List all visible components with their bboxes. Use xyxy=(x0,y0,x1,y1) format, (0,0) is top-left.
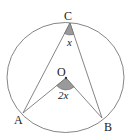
label-c: C xyxy=(64,9,72,23)
label-x: x xyxy=(66,36,72,48)
label-b: B xyxy=(104,120,112,134)
label-a: A xyxy=(14,113,23,127)
label-2x: 2x xyxy=(58,89,69,101)
circle-diagram: C x O 2x A B xyxy=(0,0,132,139)
label-o: O xyxy=(57,65,66,79)
segment-cb xyxy=(70,23,102,118)
